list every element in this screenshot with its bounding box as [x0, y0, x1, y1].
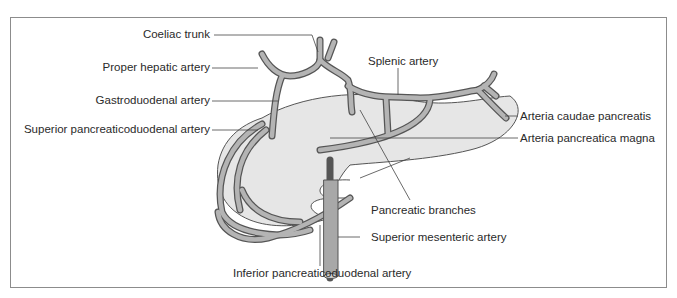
label-superior-pancreaticoduodenal-artery: Superior pancreaticoduodenal artery — [24, 123, 210, 136]
label-arteria-pancreatica-magna: Arteria pancreatica magna — [520, 132, 655, 145]
superior-mesenteric-artery-vessel — [324, 180, 338, 276]
label-inferior-pancreaticoduodenal-artery: Inferior pancreaticoduodenal artery — [233, 267, 411, 280]
label-gastroduodenal-artery: Gastroduodenal artery — [96, 94, 210, 107]
label-arteria-caudae-pancreatis: Arteria caudae pancreatis — [520, 110, 651, 123]
label-proper-hepatic-artery: Proper hepatic artery — [103, 61, 210, 74]
label-superior-mesenteric-artery: Superior mesenteric artery — [371, 231, 507, 244]
label-splenic-artery: Splenic artery — [368, 55, 438, 68]
label-pancreatic-branches: Pancreatic branches — [371, 204, 476, 217]
label-coeliac-trunk: Coeliac trunk — [143, 28, 210, 41]
pancreas-arterial-supply-diagram — [0, 0, 677, 298]
